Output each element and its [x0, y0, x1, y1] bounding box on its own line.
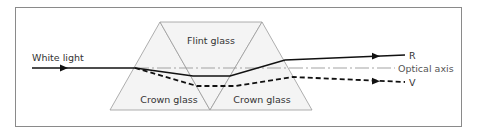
white-light-label: White light	[32, 52, 84, 63]
crown-glass-right-label: Crown glass	[233, 94, 290, 105]
violet-ray-label: V	[409, 77, 416, 88]
prism-diagram: White light Flint glass Crown glass Crow…	[0, 0, 479, 132]
red-ray-label: R	[409, 50, 416, 61]
optical-axis-label: Optical axis	[398, 63, 454, 74]
flint-glass-label: Flint glass	[187, 35, 235, 46]
crown-glass-left-label: Crown glass	[140, 94, 197, 105]
